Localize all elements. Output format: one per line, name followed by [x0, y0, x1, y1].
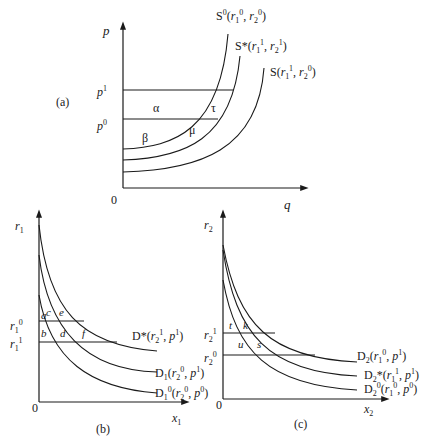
D1-label: D1(r20, p1) — [155, 365, 204, 382]
area-b: b — [41, 327, 47, 339]
r1-axis-label: r1 — [15, 219, 24, 235]
Sstar-label: S*(r11, r21) — [235, 38, 287, 55]
area-c: c — [46, 306, 51, 318]
panel-c: r2 x2 0 (c) r21 r20 D2(r10, p1) D2*(r11,… — [204, 213, 419, 431]
origin-c: 0 — [216, 398, 222, 412]
p0-label: p0 — [96, 118, 107, 133]
D2-label: D2(r10, p1) — [357, 348, 406, 365]
p1-label: p1 — [96, 84, 107, 99]
r2-0-label: r20 — [204, 350, 217, 367]
q-axis-label: q — [284, 197, 291, 212]
curve-D2star — [223, 250, 357, 376]
area-t: t — [229, 319, 233, 331]
r2-1-label: r21 — [204, 327, 217, 344]
D1-0-label: D10(r20, p0) — [155, 385, 208, 402]
area-beta: β — [142, 131, 148, 145]
diagram-canvas: p q 0 (a) p1 p0 S0(r10, r20) S*(r11, r21… — [0, 0, 427, 441]
panel-a: p q 0 (a) p1 p0 S0(r10, r20) S*(r11, r21… — [56, 8, 316, 212]
area-k: k — [243, 319, 249, 331]
panel-b-label: (b) — [96, 422, 110, 436]
p-axis-label: p — [102, 23, 110, 38]
area-alpha: α — [153, 101, 160, 115]
S-label: S(r11, r20) — [270, 64, 316, 81]
area-s: s — [257, 338, 261, 350]
curve-S — [123, 68, 264, 172]
x2-axis-label: x2 — [363, 402, 373, 418]
x1-axis-label: x1 — [171, 411, 181, 427]
area-d: d — [60, 327, 66, 339]
r2-axis-label: r2 — [204, 218, 213, 234]
panel-b: r1 x1 0 (b) r10 r11 D*(r21, p1) D1(r20, … — [10, 213, 208, 436]
Dstar-label: D*(r21, p1) — [132, 328, 183, 345]
curve-S0 — [123, 34, 228, 149]
r1-1-label: r11 — [10, 336, 22, 353]
origin-b: 0 — [32, 401, 38, 415]
origin-a: 0 — [111, 193, 117, 207]
curve-D2-0 — [223, 280, 357, 390]
area-u: u — [238, 338, 244, 350]
area-e: e — [59, 306, 64, 318]
r1-0-label: r10 — [10, 318, 23, 335]
panel-a-label: (a) — [56, 95, 69, 109]
curve-D1-0 — [39, 295, 157, 393]
S0-label: S0(r10, r20) — [216, 8, 266, 25]
curve-D1 — [39, 255, 157, 372]
panel-c-label: (c) — [294, 417, 307, 431]
area-mu: μ — [189, 123, 195, 137]
area-tau: τ — [211, 101, 216, 115]
